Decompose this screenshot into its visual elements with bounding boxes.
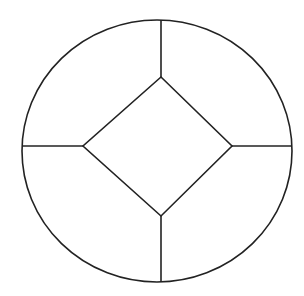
- center-diamond: [83, 77, 232, 216]
- outer-circle: [22, 20, 292, 282]
- diagram-canvas: [0, 0, 304, 296]
